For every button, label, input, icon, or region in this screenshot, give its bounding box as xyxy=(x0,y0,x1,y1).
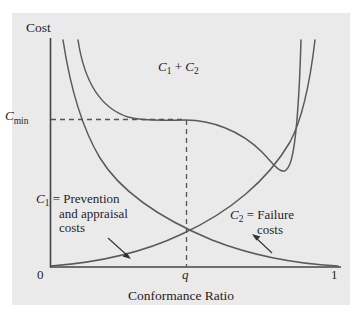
c2-annotation-line2: costs xyxy=(230,223,294,238)
curve-label-c2: C2 = Failure costs xyxy=(230,208,294,237)
c2-annotation-line1: = Failure xyxy=(247,207,294,222)
curve-label-c1: C1 = Prevention and appraisal costs xyxy=(36,192,128,236)
c1-annotation-line3: costs xyxy=(36,221,128,236)
figure-page: Cost Cmin C1 + C2 C1 = Prevention and ap… xyxy=(0,0,362,319)
cmin-subscript: min xyxy=(14,116,29,126)
c1-annotation-line2: and appraisal xyxy=(36,207,128,222)
x-tick-label-q: q xyxy=(182,268,189,283)
c1-symbol: C xyxy=(36,191,45,206)
c1-annotation-line1: = Prevention xyxy=(53,191,120,206)
x-tick-label-1: 1 xyxy=(331,268,338,283)
x-axis-title: Conformance Ratio xyxy=(0,288,362,303)
sum-c2-subscript: 2 xyxy=(194,66,199,76)
c2-subscript: 2 xyxy=(239,214,244,224)
c1-subscript: 1 xyxy=(45,198,50,208)
c2-symbol: C xyxy=(230,207,239,222)
x-tick-label-0: 0 xyxy=(37,268,44,283)
y-axis-title: Cost xyxy=(26,20,51,35)
cmin-symbol: C xyxy=(5,108,14,123)
y-tick-label-cmin: Cmin xyxy=(5,109,28,126)
sum-c1-subscript: 1 xyxy=(167,66,172,76)
curve-label-total: C1 + C2 xyxy=(158,60,199,75)
sum-c1-symbol: C xyxy=(158,59,167,74)
sum-c2-symbol: C xyxy=(185,59,194,74)
cost-of-quality-plot xyxy=(0,0,362,319)
